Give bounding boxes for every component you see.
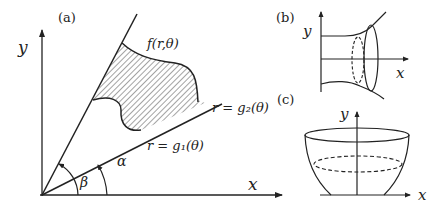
panel-a: (a) y x f(r,θ) r = g₂(θ) r = g₁(θ) α β	[17, 10, 282, 196]
c-right-side	[384, 135, 409, 195]
beta-label: β	[79, 174, 88, 190]
panel-a-label: (a)	[58, 10, 76, 25]
c-y-label: y	[339, 105, 349, 123]
arc-beta	[59, 164, 78, 195]
curve-g2-label: r = g₂(θ)	[212, 100, 269, 115]
c-x-label: x	[418, 186, 427, 204]
hatched-region	[93, 43, 205, 130]
alpha-label: α	[117, 153, 127, 169]
function-label: f(r,θ)	[146, 36, 179, 51]
b-solid-ellipse	[364, 25, 378, 91]
b-upper-profile	[321, 12, 386, 36]
y-axis-label: y	[17, 37, 28, 57]
b-dashed-ellipse	[352, 37, 364, 83]
b-lower-profile	[321, 82, 384, 99]
arc-alpha	[98, 165, 107, 195]
c-left-side	[305, 135, 331, 195]
panel-b-label: (b)	[276, 10, 294, 25]
panel-c: (c) y x	[277, 92, 427, 204]
c-dashed-ellipse	[314, 156, 402, 172]
panel-b: (b) y x	[276, 10, 408, 99]
diagram-canvas: (a) y x f(r,θ) r = g₂(θ) r = g₁(θ) α β (…	[0, 0, 444, 213]
panel-c-label: (c)	[277, 92, 294, 107]
x-axis-label: x	[248, 174, 258, 194]
b-y-label: y	[302, 22, 312, 40]
curve-g1-label: r = g₁(θ)	[147, 138, 204, 153]
b-x-label: x	[396, 64, 405, 82]
